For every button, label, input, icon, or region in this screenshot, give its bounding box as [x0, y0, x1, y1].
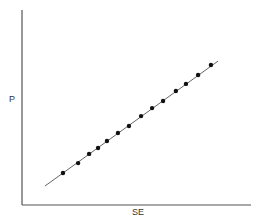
data-point — [184, 82, 188, 86]
data-point — [87, 152, 91, 156]
data-point — [139, 114, 143, 118]
trend-line — [45, 61, 218, 186]
data-point — [96, 146, 100, 150]
data-point — [174, 89, 178, 93]
data-point — [209, 63, 213, 67]
data-point — [196, 73, 200, 77]
data-point — [116, 131, 120, 135]
data-point — [105, 139, 109, 143]
data-point — [127, 124, 131, 128]
y-axis-label: P — [9, 95, 15, 104]
data-point — [161, 99, 165, 103]
x-axis-label: SE — [132, 208, 144, 217]
scatter-chart — [0, 0, 262, 224]
data-point — [150, 106, 154, 110]
data-point — [61, 171, 65, 175]
data-point — [76, 161, 80, 165]
